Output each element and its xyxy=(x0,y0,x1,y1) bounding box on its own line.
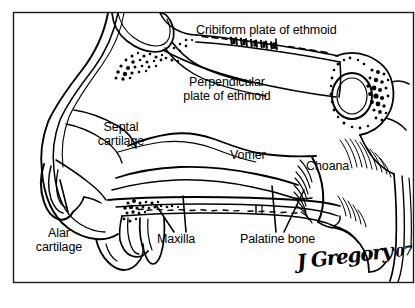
label-choana: Choana xyxy=(306,160,349,174)
label-septal-cartilage: Septal cartilage xyxy=(86,121,156,148)
anatomy-figure: Cribiform plate of ethmoid Perpendicular… xyxy=(0,0,415,308)
label-alar-cartilage: Alar cartilage xyxy=(22,227,96,254)
label-vomer: Vomer xyxy=(230,149,266,163)
signature-year: '07 xyxy=(391,243,413,260)
label-perpendicular-plate-of-ethmoid: Perpendicular plate of ethmoid xyxy=(166,76,288,103)
label-septal-line-2: cartilage xyxy=(98,134,144,148)
label-perpendicular-line-1: Perpendicular xyxy=(189,75,265,89)
label-cribiform-plate-of-ethmoid: Cribiform plate of ethmoid xyxy=(196,24,337,38)
label-maxilla: Maxilla xyxy=(157,233,195,247)
label-alar-line-2: cartilage xyxy=(36,240,82,254)
label-alar-line-1: Alar xyxy=(48,226,70,240)
label-palatine-bone: Palatine bone xyxy=(240,233,315,247)
label-perpendicular-line-2: plate of ethmoid xyxy=(183,89,270,103)
label-septal-line-1: Septal xyxy=(104,120,139,134)
